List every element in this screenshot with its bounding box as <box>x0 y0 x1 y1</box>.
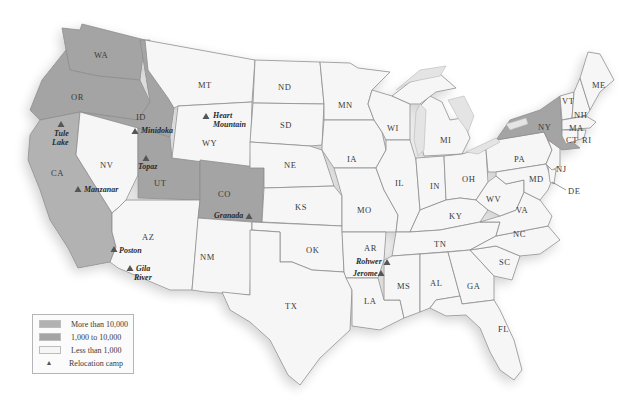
label-nc: NC <box>513 229 526 239</box>
label-tx: TX <box>285 301 297 311</box>
legend-label: More than 10,000 <box>71 320 128 329</box>
legend-label: Less than 1,000 <box>71 346 121 355</box>
state-fl <box>430 296 522 380</box>
svg-text:Tule: Tule <box>54 129 69 138</box>
legend-swatch-high <box>39 320 61 328</box>
state-wy <box>172 102 252 168</box>
label-ny: NY <box>538 122 551 132</box>
svg-text:Rohwer: Rohwer <box>355 257 383 266</box>
label-ks: KS <box>295 202 307 212</box>
label-md: MD <box>529 174 544 184</box>
label-vt: VT <box>562 96 575 106</box>
de-leader-line <box>552 182 566 190</box>
label-ct: CT <box>566 135 578 145</box>
label-ok: OK <box>306 245 320 255</box>
legend-label: 1,000 to 10,000 <box>71 333 121 342</box>
camp-triangle-icon: ▲ <box>39 359 59 367</box>
label-mi: MI <box>440 135 451 145</box>
label-ne: NE <box>284 160 296 170</box>
legend-item-1000-to-10000: 1,000 to 10,000 <box>33 331 133 343</box>
label-al: AL <box>430 278 442 288</box>
label-id: ID <box>136 112 146 122</box>
label-mn: MN <box>338 100 353 110</box>
label-wv: WV <box>486 194 502 204</box>
label-ca: CA <box>51 168 64 178</box>
svg-text:Topaz: Topaz <box>138 162 158 171</box>
label-wa: WA <box>94 50 109 60</box>
label-in: IN <box>430 181 440 191</box>
map-legend: More than 10,000 1,000 to 10,000 Less th… <box>32 314 134 374</box>
label-me: ME <box>592 80 606 90</box>
legend-label: Relocation camp <box>69 359 123 368</box>
svg-text:Poston: Poston <box>119 246 142 255</box>
legend-item-less-than-1000: Less than 1,000 <box>33 344 133 356</box>
label-or: OR <box>71 92 84 102</box>
label-la: LA <box>364 296 377 306</box>
state-az <box>110 200 200 290</box>
label-fl: FL <box>498 324 509 334</box>
svg-text:Lake: Lake <box>51 138 69 147</box>
label-ia: IA <box>347 154 357 164</box>
label-il: IL <box>395 178 404 188</box>
label-tn: TN <box>434 239 446 249</box>
svg-text:Minidoka: Minidoka <box>140 126 173 135</box>
label-ga: GA <box>467 281 481 291</box>
svg-text:Gila: Gila <box>136 264 150 273</box>
label-ar: AR <box>364 243 377 253</box>
label-nd: ND <box>278 82 291 92</box>
svg-text:Heart: Heart <box>212 111 233 120</box>
label-nm: NM <box>200 252 215 262</box>
label-ri: RI <box>582 135 592 145</box>
label-ky: KY <box>449 211 462 221</box>
label-ms: MS <box>397 281 410 291</box>
label-pa: PA <box>514 154 525 164</box>
svg-text:Jerome: Jerome <box>352 269 378 278</box>
label-co: CO <box>218 189 231 199</box>
legend-swatch-mid <box>39 333 61 341</box>
label-sd: SD <box>280 120 292 130</box>
legend-item-relocation-camp: ▲ Relocation camp <box>33 357 133 369</box>
label-oh: OH <box>462 174 475 184</box>
label-ut: UT <box>154 178 167 188</box>
label-de: DE <box>568 186 580 196</box>
legend-swatch-low <box>39 346 61 354</box>
svg-text:Granada: Granada <box>214 211 243 220</box>
lake-michigan <box>414 104 426 156</box>
legend-item-more-than-10000: More than 10,000 <box>33 318 133 330</box>
label-nh: NH <box>574 110 587 120</box>
svg-text:Manzanar: Manzanar <box>83 185 119 194</box>
svg-text:Mountain: Mountain <box>212 120 246 129</box>
label-ma: MA <box>569 123 584 133</box>
label-va: VA <box>516 205 529 215</box>
label-wy: WY <box>202 138 217 148</box>
label-mt: MT <box>198 80 212 90</box>
label-wi: WI <box>387 123 399 133</box>
svg-text:River: River <box>133 273 153 282</box>
label-sc: SC <box>499 257 510 267</box>
label-nv: NV <box>100 160 114 170</box>
label-mo: MO <box>357 205 372 215</box>
label-nj: NJ <box>556 164 567 174</box>
label-az: AZ <box>142 232 154 242</box>
